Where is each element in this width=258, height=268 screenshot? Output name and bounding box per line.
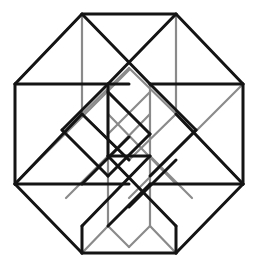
tesseract-projection-figure: [0, 0, 258, 268]
figure-background: [0, 0, 258, 268]
figure-container: [0, 0, 258, 268]
